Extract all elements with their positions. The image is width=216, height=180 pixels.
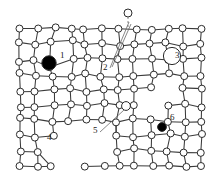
lattice-atom [17, 104, 24, 111]
lattice-atom [130, 73, 137, 80]
lattice-atom [148, 147, 155, 154]
lattice-atom [182, 100, 189, 107]
lattice-atom [83, 102, 90, 109]
lattice-atom [68, 101, 75, 108]
lattice-atom [17, 148, 24, 155]
lattice-atom [47, 163, 54, 170]
lattice-atom [16, 131, 23, 138]
lattice-atom [165, 25, 172, 32]
lattice-atom [82, 70, 89, 77]
lattice-atom [67, 85, 74, 92]
lattice-atom [148, 84, 155, 91]
lattice-atom [100, 86, 107, 93]
lattice-atom [99, 116, 106, 123]
lattice-atom [49, 118, 56, 125]
lattice-atom [16, 163, 23, 170]
lattice-atom [179, 84, 186, 91]
lattice-atom [131, 41, 138, 48]
figure-canvas: 123456 [0, 0, 216, 180]
defect-marker-layer [42, 9, 181, 131]
lattice-atom [148, 26, 155, 33]
lattice-atom [198, 104, 205, 111]
lattice-atom [17, 114, 24, 121]
lattice-atom [84, 54, 91, 61]
lattice-atom [47, 38, 54, 45]
lattice-atom [181, 133, 188, 140]
lattice-atom [51, 102, 58, 109]
lattice-atom [34, 149, 41, 156]
lattice-atom [15, 58, 22, 65]
lattice-atom [31, 115, 38, 122]
lattice-atom [131, 85, 138, 92]
lattice-atom [115, 25, 122, 32]
lattice-atom [68, 73, 75, 80]
leader-line-layer [100, 17, 131, 132]
lattice-atom [49, 73, 56, 80]
lattice-atom [32, 72, 39, 79]
lattice-atom [150, 162, 157, 169]
lattice-atom [116, 162, 123, 169]
lattice-atom [197, 40, 204, 47]
lattice-atom [179, 25, 186, 32]
lattice-atom [181, 73, 188, 80]
lattice-atom [16, 69, 23, 76]
lattice-atom [198, 85, 205, 92]
lattice-atom [133, 26, 140, 33]
lattice-atom [101, 100, 108, 107]
adatom-above-lattice-2 [124, 9, 132, 17]
lattice-atom [83, 116, 90, 123]
interstitial-atom-5 [122, 102, 131, 111]
lattice-atom [70, 55, 77, 62]
lattice-atom [197, 163, 204, 170]
lattice-atom [131, 145, 138, 152]
lattice-atom [167, 130, 174, 137]
lattice-atom [148, 132, 155, 139]
defect-label-6: 6 [170, 112, 175, 122]
lattice-atom [81, 163, 88, 170]
defect-label-1: 1 [60, 50, 65, 60]
lattice-atom [198, 54, 205, 61]
lattice-atom [113, 132, 120, 139]
lattice-atom [146, 40, 153, 47]
lattice-atom [116, 74, 123, 81]
lattice-atom [80, 26, 87, 33]
lattice-atom [51, 86, 58, 93]
lattice-atom [166, 162, 173, 169]
lattice-atom [30, 57, 37, 64]
lattice-atom [65, 118, 72, 125]
lattice-atom [34, 163, 41, 170]
lattice-atom [83, 88, 90, 95]
lattice-atom [130, 162, 137, 169]
lattice-atom [198, 131, 205, 138]
lattice-atom [180, 149, 187, 156]
lattice-atom [32, 41, 39, 48]
lattice-atom [183, 163, 190, 170]
black-small-atom-6 [158, 123, 167, 132]
defect-label-2: 2 [103, 62, 108, 72]
lattice-atom [147, 116, 154, 123]
lattice-atom [31, 88, 38, 95]
lattice-atom [31, 134, 38, 141]
lattice-atom [162, 39, 169, 46]
lattice-atom [129, 115, 136, 122]
lattice-atom [198, 118, 205, 125]
lattice-atom [166, 70, 173, 77]
lattice-atom [165, 102, 172, 109]
lattice-atom [98, 25, 105, 32]
lattice-atom [150, 71, 157, 78]
black-large-atom-1 [42, 56, 56, 70]
lattice-atom [130, 102, 137, 109]
lattice-atom [17, 88, 24, 95]
lattice-atom [101, 162, 108, 169]
lattice-atom [99, 55, 106, 62]
lattice-atom [16, 25, 23, 32]
lattice-atom [163, 148, 170, 155]
lattice-atom [68, 25, 75, 32]
lattice-atom [99, 40, 106, 47]
lattice-atom [180, 43, 187, 50]
lattice-atom [149, 55, 156, 62]
defect-label-3: 3 [175, 50, 180, 60]
lattice-atom [97, 73, 104, 80]
lattice-atom [114, 148, 121, 155]
lattice-atom [69, 37, 76, 44]
